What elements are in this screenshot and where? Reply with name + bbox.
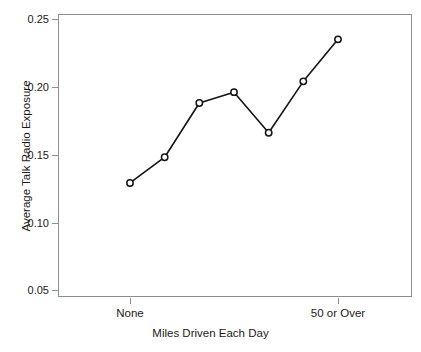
y-tick-label-0.25: 0.25 (28, 14, 49, 25)
y-tick-mark-0.05 (52, 290, 58, 291)
x-tick-mark-none (130, 298, 131, 304)
y-tick-mark-0.25 (52, 19, 58, 20)
y-axis-title: Average Talk Radio Exposure (20, 56, 32, 256)
x-tick-mark-50-or-over (338, 298, 339, 304)
plot-area-frame (58, 14, 412, 297)
x-axis-title: Miles Driven Each Day (0, 327, 421, 339)
y-tick-mark-0.15 (52, 155, 58, 156)
y-tick-mark-0.10 (52, 223, 58, 224)
x-tick-label-none: None (116, 306, 144, 320)
chart-figure: 0.25 0.20 0.15 0.10 0.05 Average Talk Ra… (0, 0, 421, 352)
y-tick-label-0.05: 0.05 (28, 285, 49, 296)
y-tick-mark-0.20 (52, 87, 58, 88)
x-tick-label-50-or-over: 50 or Over (311, 306, 365, 320)
